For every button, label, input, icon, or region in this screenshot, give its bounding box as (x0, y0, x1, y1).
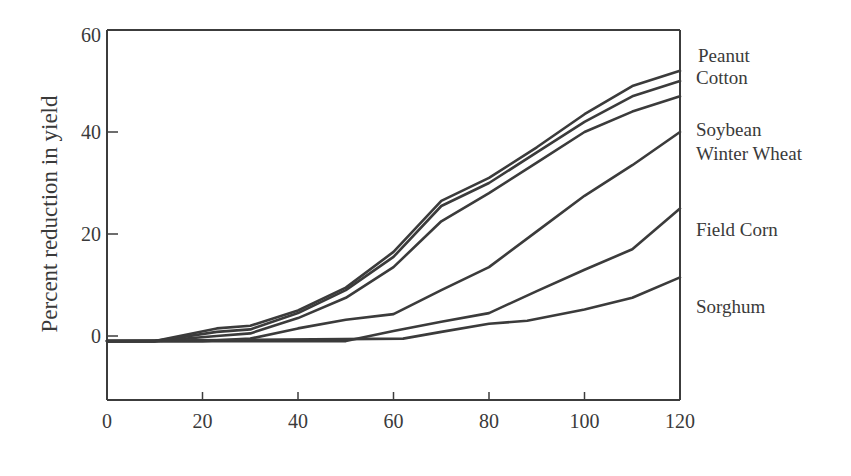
x-tick-label-20: 20 (193, 410, 213, 432)
x-tick-label-80: 80 (479, 410, 499, 432)
label-soybean: Soybean (696, 119, 762, 140)
series-line-soybean (107, 96, 680, 341)
label-sorghum: Sorghum (696, 296, 766, 317)
x-tick-labels: 0 20 40 60 80 100 120 (102, 410, 695, 432)
series-line-winter-wheat (107, 132, 680, 341)
series-line-field-corn (107, 209, 680, 342)
line-chart: 60 40 20 0 0 20 40 60 80 100 120 Percent… (0, 0, 851, 476)
label-field-corn: Field Corn (696, 219, 778, 240)
series-line-peanut (107, 71, 680, 341)
series-labels: Peanut Cotton Soybean Winter Wheat Field… (696, 45, 803, 317)
x-tick-label-120: 120 (665, 410, 695, 432)
y-ticks (107, 132, 118, 336)
x-tick-label-40: 40 (288, 410, 308, 432)
label-cotton: Cotton (696, 67, 748, 88)
y-tick-label-40: 40 (81, 121, 101, 143)
label-winter-wheat: Winter Wheat (696, 143, 803, 164)
x-tick-label-0: 0 (102, 410, 112, 432)
series-lines (107, 71, 680, 341)
x-ticks (203, 392, 585, 400)
y-tick-label-60: 60 (81, 24, 101, 46)
y-tick-labels: 60 40 20 0 (81, 24, 101, 347)
x-tick-label-60: 60 (384, 410, 404, 432)
plot-frame (107, 30, 680, 400)
y-tick-label-20: 20 (81, 223, 101, 245)
x-tick-label-100: 100 (570, 410, 600, 432)
series-line-cotton (107, 81, 680, 341)
label-peanut: Peanut (698, 45, 750, 66)
y-axis-label: Percent reduction in yield (37, 95, 62, 332)
y-tick-label-0: 0 (91, 325, 101, 347)
